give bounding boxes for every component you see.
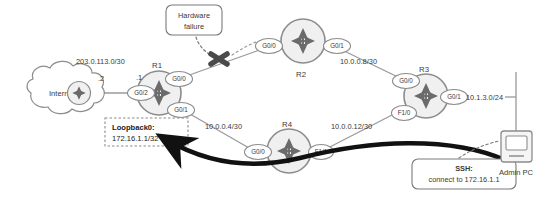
hardware-failure-line1: Hardware: [178, 11, 210, 20]
interface-r3-f1-0-label: F1/0: [398, 109, 411, 116]
cloud-router-icon: [68, 82, 91, 105]
label-r1-octet: .1: [136, 73, 142, 82]
r4-label: R4: [282, 120, 293, 129]
label-r4-r3-link: 10.0.0.12/30: [331, 122, 372, 131]
interface-r3-g0-0-label: G0/0: [399, 77, 413, 84]
cloud-shape: [27, 61, 104, 113]
hardware-failure-leader: [196, 37, 209, 54]
loopback-line1: Loopback0:: [112, 123, 155, 132]
loopback-line2: 172.16.1.1/32: [112, 134, 158, 143]
r3-label: R3: [419, 65, 429, 74]
router-r2: R2: [281, 19, 325, 79]
interface-r2-g0-1: G0/1: [324, 39, 351, 54]
hardware-failure-callout: Hardware failure: [166, 5, 256, 55]
link-r1-r4: [183, 110, 256, 152]
label-r3-lan: 10.1.3.0/24: [466, 93, 503, 102]
interface-r2-g0-0-label: G0/0: [262, 42, 276, 49]
admin-pc: Admin PC: [499, 131, 534, 177]
admin-pc-screen: [506, 136, 527, 150]
router-r4: R4: [267, 120, 311, 173]
interface-r3-g0-0: G0/0: [393, 74, 420, 89]
interface-r1-g0-0: G0/0: [166, 72, 193, 87]
label-r1-r4-link: 10.0.0.4/30: [205, 122, 242, 131]
internet-cloud: Internet: [27, 61, 104, 113]
link-failure-x-icon: [211, 54, 227, 64]
label-internet-octet: .2: [98, 74, 104, 83]
interface-r1-g0-1-label: G0/1: [174, 106, 188, 113]
interface-r4-g0-0: G0/0: [245, 145, 272, 160]
interface-r3-g0-1: G0/1: [441, 90, 468, 105]
interface-r2-g0-1-label: G0/1: [330, 42, 344, 49]
interface-r1-g0-1: G0/1: [168, 103, 195, 118]
network-topology-diagram: Internet R1: [0, 0, 553, 198]
interface-r3-g0-1-label: G0/1: [447, 93, 461, 100]
label-r2-r3-link: 10.0.0.8/30: [340, 57, 377, 66]
label-internet-link: 203.0.113.0/30: [76, 57, 125, 66]
hardware-failure-line2: failure: [184, 22, 204, 31]
admin-pc-label: Admin PC: [499, 168, 534, 177]
interface-r1-g0-2: G0/2: [128, 86, 155, 101]
interface-r1-g0-0-label: G0/0: [172, 75, 186, 82]
interface-r4-g0-0-label: G0/0: [251, 148, 265, 155]
interface-r1-g0-2-label: G0/2: [134, 89, 148, 96]
interface-r2-g0-0: G0/0: [256, 39, 283, 54]
r2-label: R2: [296, 70, 306, 79]
diagram-canvas: Internet R1: [0, 0, 553, 198]
ssh-line1: SSH:: [455, 164, 473, 173]
ssh-line2: connect to 172.16.1.1: [428, 175, 499, 184]
loopback-callout: Loopback0: 172.16.1.1/32: [105, 118, 188, 146]
r1-label: R1: [152, 61, 162, 70]
interface-r3-f1-0: F1/0: [392, 106, 417, 121]
